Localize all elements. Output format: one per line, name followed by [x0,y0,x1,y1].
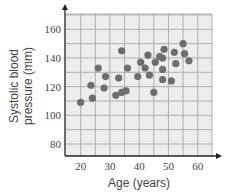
data-point [118,47,125,54]
data-point [152,59,159,66]
data-point [124,64,131,71]
data-point [168,77,175,84]
data-point [181,50,188,57]
data-point [87,82,94,89]
y-tick-label: 140 [45,52,62,64]
scatter-chart: 2030405060 80100120140160 Age (years) Sy… [0,0,225,194]
data-point [171,49,178,56]
y-tick-label: 120 [45,81,62,93]
data-point [159,66,166,73]
x-tick-label: 60 [192,160,204,172]
data-point [150,89,157,96]
data-point [134,73,141,80]
data-point [101,84,108,91]
data-point [172,60,179,67]
data-point [159,54,166,61]
data-point [89,95,96,102]
data-point [102,73,109,80]
data-point [95,64,102,71]
data-point [185,57,192,64]
x-tick-labels: 2030405060 [75,160,204,172]
y-tick-labels: 80100120140160 [45,23,62,150]
data-point [77,99,84,106]
y-axis-label-line: Systolic blood [7,49,21,123]
data-point [159,76,166,83]
data-point [160,46,167,53]
y-tick-label: 100 [45,109,62,121]
x-tick-label: 20 [75,160,87,172]
data-point [179,40,186,47]
plot-area [65,14,212,156]
data-point [115,74,122,81]
x-axis-label: Age (years) [108,176,170,190]
data-point [144,52,151,59]
y-tick-label: 80 [50,138,62,150]
data-point [137,59,144,66]
y-tick-label: 160 [45,23,62,35]
data-point [146,72,153,79]
data-point [122,87,129,94]
y-axis-label-line: pressure (mm) [21,47,35,125]
x-tick-label: 30 [104,160,116,172]
x-tick-label: 40 [134,160,146,172]
data-point [141,64,148,71]
y-axis-label: Systolic bloodpressure (mm) [7,47,35,125]
x-tick-label: 50 [163,160,175,172]
